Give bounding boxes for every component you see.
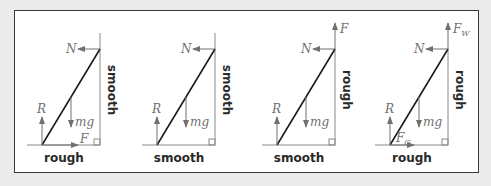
wall-friction-label: F [339,22,349,36]
weight-label: mg [310,115,329,129]
diagram-1: N R mg F smooth rough [27,33,119,165]
diagram-2: N R mg smooth smooth [142,33,234,165]
friction-label: F [79,132,89,146]
normal-force-label: N [300,42,312,56]
ground-surface-label: rough [44,151,84,165]
ground-surface-label: smooth [274,151,324,165]
wall-surface-label: rough [340,70,354,110]
weight-label: mg [75,115,94,129]
normal-force-label: N [180,42,192,56]
normal-force-label: N [65,42,77,56]
right-angle-mark [442,139,448,145]
weight-label: mg [423,115,442,129]
wall-surface-label: smooth [105,65,119,115]
ladder-diagrams: N R mg F smooth rough N R mg smooth smoo… [0,0,491,186]
ground-friction-label: FG [395,131,411,147]
right-angle-mark [329,139,335,145]
normal-force-label: N [413,42,425,56]
wall-friction-label: FW [452,22,470,38]
ground-surface-label: rough [392,151,432,165]
wall-surface-label: smooth [220,65,234,115]
right-angle-mark [209,139,215,145]
diagram-3: F N R mg rough smooth [262,22,354,165]
ground-surface-label: smooth [154,151,204,165]
reaction-label: R [384,102,394,116]
wall-surface-label: rough [453,70,467,110]
right-angle-mark [94,139,100,145]
weight-label: mg [190,115,209,129]
reaction-label: R [36,102,46,116]
reaction-label: R [271,102,281,116]
diagram-4: FW N R mg FG rough rough [375,22,470,165]
reaction-label: R [151,102,161,116]
